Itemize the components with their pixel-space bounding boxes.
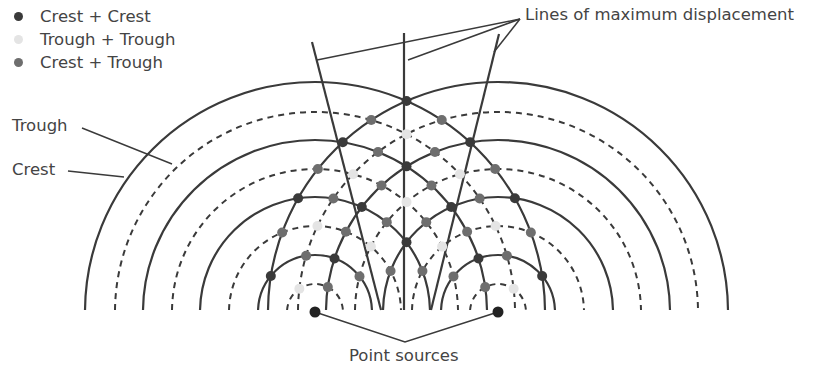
crest-trough-point <box>448 271 458 281</box>
trough-leader-line <box>82 128 172 164</box>
trough-arc <box>412 226 584 310</box>
crest-trough-point <box>355 271 365 281</box>
crest-crest-point <box>402 161 412 171</box>
crest-trough-point <box>323 282 333 292</box>
point-source-dot <box>310 307 321 318</box>
crest-crest-point <box>330 253 340 263</box>
crest-arc <box>441 255 555 310</box>
crest-trough-point <box>373 147 383 157</box>
trough-trough-point <box>402 197 412 207</box>
crest-leader-line <box>68 171 124 177</box>
crest-crest-point <box>293 193 303 203</box>
legend: Crest + Crest Trough + Trough Crest + Tr… <box>14 5 175 74</box>
crest-trough-point <box>417 266 427 276</box>
crest-trough-point <box>313 164 323 174</box>
legend-item-crest-trough: Crest + Trough <box>14 51 175 74</box>
crest-trough-point <box>480 282 490 292</box>
trough-label: Trough <box>12 118 68 135</box>
interference-points <box>266 96 547 294</box>
trough-arc <box>172 169 458 310</box>
legend-item-crest-crest: Crest + Crest <box>14 5 175 28</box>
max-displacement-label: Lines of maximum displacement <box>525 7 794 24</box>
crest-trough-point <box>301 251 311 261</box>
crest-trough-point <box>526 228 536 238</box>
trough-trough-point <box>312 221 322 231</box>
crest-crest-point <box>537 271 547 281</box>
point-sources <box>310 307 504 318</box>
crest-arc <box>383 197 613 310</box>
trough-trough-point <box>294 284 304 294</box>
trough-trough-point <box>491 221 501 231</box>
crest-crest-point <box>338 137 348 147</box>
crest-crest-point <box>357 202 367 212</box>
crest-trough-point <box>277 228 287 238</box>
trough-trough-point <box>366 242 376 252</box>
dark-dot-icon <box>14 12 23 21</box>
crest-crest-point <box>446 202 456 212</box>
crest-arc <box>200 197 430 310</box>
trough-arc <box>229 226 401 310</box>
trough-trough-point <box>455 169 465 179</box>
crest-trough-point <box>462 227 472 237</box>
crest-crest-point <box>510 193 520 203</box>
crest-crest-point <box>465 137 475 147</box>
trough-trough-point <box>402 129 412 139</box>
crest-label: Crest <box>12 162 55 179</box>
trough-trough-point <box>348 169 358 179</box>
legend-label: Crest + Crest <box>40 7 151 26</box>
light-dot-icon <box>14 35 23 44</box>
trough-trough-point <box>509 284 519 294</box>
point-source-dot <box>493 307 504 318</box>
legend-label: Trough + Trough <box>40 30 175 49</box>
crest-trough-point <box>341 227 351 237</box>
crest-crest-point <box>266 271 276 281</box>
crest-trough-point <box>437 115 447 125</box>
crest-trough-point <box>386 266 396 276</box>
crest-trough-point <box>430 147 440 157</box>
point-sources-label: Point sources <box>349 348 459 365</box>
crest-trough-point <box>426 180 436 190</box>
max-displacement-line <box>431 34 499 310</box>
crest-crest-point <box>402 96 412 106</box>
crest-trough-point <box>421 217 431 227</box>
max-leader-line <box>317 19 520 60</box>
crest-trough-point <box>490 164 500 174</box>
crest-arc <box>258 255 372 310</box>
legend-label: Crest + Trough <box>40 53 163 72</box>
crest-crest-point <box>473 253 483 263</box>
crest-trough-point <box>328 193 338 203</box>
crest-trough-point <box>382 217 392 227</box>
max-displacement-line <box>312 42 381 310</box>
crest-trough-point <box>377 180 387 190</box>
crest-crest-point <box>402 237 412 247</box>
crest-trough-point <box>475 193 485 203</box>
crest-trough-point <box>366 115 376 125</box>
trough-trough-point <box>437 242 447 252</box>
medium-dot-icon <box>14 58 23 67</box>
crest-trough-point <box>502 251 512 261</box>
legend-item-trough-trough: Trough + Trough <box>14 28 175 51</box>
sources-leader-line <box>315 312 498 342</box>
